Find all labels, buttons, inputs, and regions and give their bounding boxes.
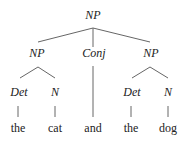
word-the-1: the bbox=[11, 121, 26, 135]
word-cat: cat bbox=[48, 121, 62, 135]
node-root-np: NP bbox=[85, 8, 100, 22]
node-det-right: Det bbox=[123, 85, 140, 99]
node-det-left: Det bbox=[10, 85, 27, 99]
word-and: and bbox=[84, 121, 101, 135]
node-np-right: NP bbox=[143, 46, 158, 60]
node-n-right: N bbox=[164, 85, 172, 99]
node-conj: Conj bbox=[82, 46, 105, 60]
node-n-left: N bbox=[51, 85, 59, 99]
node-np-left: NP bbox=[29, 46, 44, 60]
word-dog: dog bbox=[159, 121, 177, 135]
word-the-2: the bbox=[124, 121, 139, 135]
